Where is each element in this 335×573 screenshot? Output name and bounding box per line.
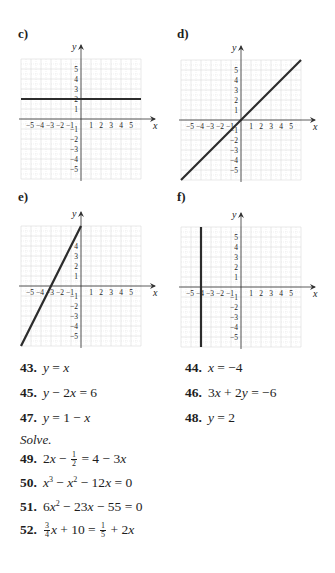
x-tick-label: 3 (269, 289, 273, 298)
exercise-equation: y = 2 (208, 410, 235, 425)
x-axis-label: x (312, 288, 318, 299)
exercise-47: 47.y = 1 − x (20, 410, 90, 426)
x-tick-label: 2 (259, 289, 263, 298)
y-tick-label: −5 (230, 333, 238, 342)
fraction: 15 (100, 522, 106, 539)
y-tick-label: −2 (230, 303, 238, 312)
exercise-44: 44.x = −4 (185, 360, 243, 376)
equation-part: 2x − (43, 451, 70, 466)
exercise-number: 43. (20, 360, 37, 375)
exercise-equation: y = 1 − x (43, 410, 90, 425)
exercise-number: 46. (185, 385, 202, 400)
exercise-number: 49. (20, 451, 37, 466)
equation-part: x + 10 = (51, 522, 99, 537)
exercise-49: 49.2x − 12 = 4 − 3x (20, 451, 126, 468)
exercise-50: 50.x3 − x2 − 12x = 0 (20, 475, 132, 491)
fraction: 34 (44, 522, 50, 539)
y-tick-label: −1 (230, 293, 238, 302)
equation-part: − 12x = 0 (77, 475, 132, 490)
solve-heading: Solve. (20, 432, 51, 448)
fraction-denominator: 5 (100, 531, 106, 539)
exercise-equation: x = −4 (208, 360, 243, 375)
x-tick-label: 5 (289, 289, 293, 298)
exercise-number: 47. (20, 410, 37, 425)
exercise-number: 44. (185, 360, 202, 375)
y-tick-label: 3 (234, 253, 238, 262)
fraction: 12 (71, 451, 77, 468)
y-tick-label: 1 (234, 273, 238, 282)
x-tick-label: −3 (206, 289, 214, 298)
y-tick-label: −4 (230, 323, 238, 332)
exercise-48: 48.y = 2 (185, 410, 235, 426)
x-tick-label: −2 (216, 289, 224, 298)
x-tick-label: 1 (249, 289, 253, 298)
exercise-number: 50. (20, 475, 37, 490)
exercise-43: 43.y = x (20, 360, 69, 376)
x-tick-label: −5 (186, 289, 194, 298)
fraction-denominator: 2 (71, 460, 77, 468)
equation-part: 6x (43, 499, 56, 514)
exercise-number: 52. (20, 522, 37, 537)
exercise-51: 51.6x2 − 23x − 55 = 0 (20, 499, 142, 515)
y-axis-label: y (231, 209, 237, 220)
exercise-equation: 3x + 2y = −6 (208, 385, 277, 400)
y-tick-label: 5 (234, 233, 238, 242)
equation-part: − x (53, 475, 73, 490)
equation-part: + 2x (107, 522, 134, 537)
exercise-equation: y = x (43, 360, 69, 375)
equation-part: − 23x − 55 = 0 (60, 499, 143, 514)
exercise-number: 51. (20, 499, 37, 514)
exercise-equation: y − 2x = 6 (43, 385, 97, 400)
y-tick-label: 4 (234, 243, 238, 252)
y-tick-label: 2 (234, 263, 238, 272)
exercise-52: 52.34x + 10 = 15 + 2x (20, 522, 134, 539)
x-tick-label: 4 (279, 289, 283, 298)
equation-part: = 4 − 3x (78, 451, 126, 466)
exercise-number: 45. (20, 385, 37, 400)
fraction-denominator: 4 (44, 531, 50, 539)
exercise-46: 46.3x + 2y = −6 (185, 385, 276, 401)
y-tick-label: −3 (230, 313, 238, 322)
exercise-45: 45.y − 2x = 6 (20, 385, 97, 401)
exercise-number: 48. (185, 410, 202, 425)
